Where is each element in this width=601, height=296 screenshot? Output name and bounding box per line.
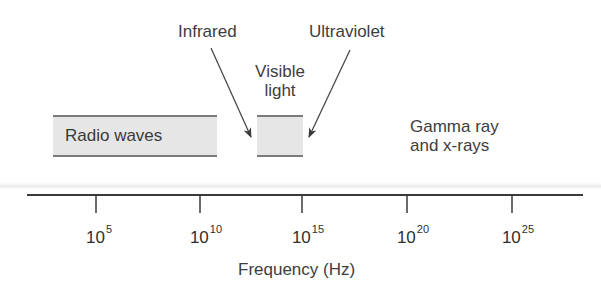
diagram-lines bbox=[0, 0, 601, 296]
ultraviolet-arrow-icon bbox=[309, 50, 350, 137]
axis-title: Frequency (Hz) bbox=[238, 260, 355, 279]
tick-label-1e5: 105 bbox=[86, 226, 112, 248]
tick-label-1e25: 1025 bbox=[502, 226, 534, 248]
tick-label-1e15: 1015 bbox=[292, 226, 324, 248]
tick-label-1e10: 1010 bbox=[190, 226, 222, 248]
infrared-arrow-icon bbox=[211, 48, 251, 137]
em-spectrum-diagram: Infrared Ultraviolet Visible light Gamma… bbox=[0, 0, 601, 296]
tick-label-1e20: 1020 bbox=[397, 226, 429, 248]
